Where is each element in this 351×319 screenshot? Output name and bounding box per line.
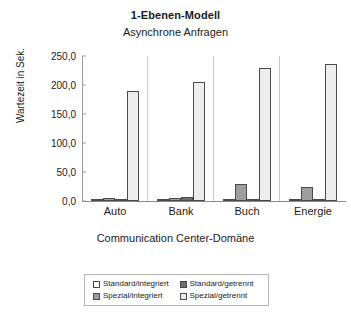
bar: [127, 91, 139, 201]
legend-label: Spezial/getrennt: [190, 291, 248, 301]
y-tick-label: 150,0: [32, 109, 76, 120]
bar-group: [148, 56, 214, 201]
bar-group: [214, 56, 280, 201]
chart-subtitle: Asynchrone Anfragen: [0, 26, 351, 38]
x-tick-label: Auto: [82, 205, 148, 217]
legend-item[interactable]: Spezial/getrennt: [180, 291, 263, 301]
bar-group-inner: [157, 56, 205, 201]
y-tick-label: 50,0: [32, 167, 76, 178]
bar-group-inner: [289, 56, 337, 201]
bar: [115, 199, 127, 201]
y-tick-label: 100,0: [32, 138, 76, 149]
legend-label: Standard/getrennt: [190, 279, 254, 289]
bar-groups: [82, 56, 345, 201]
legend-label: Spezial/integriert: [103, 291, 163, 301]
legend-label: Standard/integriert: [103, 279, 169, 289]
chart-title: 1-Ebenen-Modell: [0, 9, 351, 21]
x-tick-label: Buch: [214, 205, 280, 217]
bar-group-inner: [91, 56, 139, 201]
legend-item[interactable]: Standard/getrennt: [180, 279, 263, 289]
x-axis-line: [82, 201, 346, 202]
x-tick-label: Energie: [280, 205, 346, 217]
legend-swatch-icon: [93, 293, 100, 300]
bar: [223, 199, 235, 201]
bar: [103, 198, 115, 201]
bar-group: [82, 56, 148, 201]
x-axis-title: Communication Center-Domäne: [0, 232, 351, 244]
y-tick-label: 250,0: [32, 51, 76, 62]
bar-chart: 1-Ebenen-Modell Asynchrone Anfragen Wart…: [0, 0, 351, 319]
legend-item[interactable]: Spezial/integriert: [93, 291, 176, 301]
legend-item[interactable]: Standard/integriert: [93, 279, 176, 289]
bar: [289, 199, 301, 201]
x-tick-label: Bank: [148, 205, 214, 217]
y-tick-label: 200,0: [32, 80, 76, 91]
bar-group-inner: [223, 56, 271, 201]
y-axis-title: Wartezeit in Sek.: [15, 26, 26, 146]
bar: [301, 187, 313, 201]
bar: [91, 199, 103, 201]
chart-legend: Standard/integriertStandard/getrenntSpez…: [84, 274, 269, 306]
bar: [181, 197, 193, 201]
bar: [169, 198, 181, 201]
x-axis-labels: AutoBankBuchEnergie: [82, 205, 346, 217]
legend-swatch-icon: [180, 281, 187, 288]
legend-swatch-icon: [93, 281, 100, 288]
bar: [259, 68, 271, 201]
bar: [157, 199, 169, 201]
plot-area: 0,050,0100,0150,0200,0250,0: [82, 56, 345, 201]
legend-swatch-icon: [180, 293, 187, 300]
bar: [247, 199, 259, 201]
bar: [235, 184, 247, 201]
bar: [313, 199, 325, 201]
bar: [325, 64, 337, 201]
bar: [193, 82, 205, 201]
bar-group: [280, 56, 345, 201]
y-tick-label: 0,0: [32, 196, 76, 207]
